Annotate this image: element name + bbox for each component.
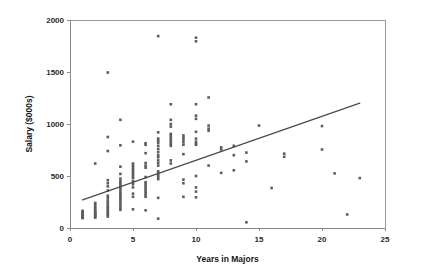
plot-frame — [70, 20, 385, 228]
data-point — [346, 213, 349, 216]
data-point — [195, 140, 198, 143]
data-point — [182, 182, 185, 185]
regression-trend-line — [83, 103, 360, 200]
data-point — [144, 209, 147, 212]
data-point — [182, 178, 185, 181]
data-point — [195, 40, 198, 43]
data-point — [107, 150, 110, 153]
data-point — [170, 133, 173, 136]
y-tick-label: 500 — [51, 172, 65, 181]
data-point — [182, 141, 185, 144]
data-point — [170, 159, 173, 162]
data-point — [132, 186, 135, 189]
data-point — [321, 125, 324, 128]
data-point — [157, 148, 160, 151]
data-point — [157, 35, 160, 38]
data-point — [245, 160, 248, 163]
data-point — [245, 151, 248, 154]
data-point — [170, 119, 173, 122]
data-point — [94, 162, 97, 165]
y-tick-label: 1000 — [46, 120, 64, 129]
data-point — [132, 140, 135, 143]
data-point — [157, 131, 160, 134]
data-point — [195, 175, 198, 178]
data-point — [132, 208, 135, 211]
data-point — [195, 103, 198, 106]
x-tick-label: 15 — [255, 235, 264, 244]
data-point — [233, 154, 236, 157]
data-point — [144, 142, 147, 145]
data-point — [107, 179, 110, 182]
data-point — [195, 36, 198, 39]
data-point — [182, 144, 185, 147]
data-point — [207, 164, 210, 167]
data-point — [132, 196, 135, 199]
data-point — [144, 152, 147, 155]
y-axis-title: Salary ($000s) — [24, 95, 34, 152]
data-point — [157, 197, 160, 200]
data-point — [195, 186, 198, 189]
data-point — [144, 164, 147, 167]
x-tick-label: 0 — [68, 235, 73, 244]
data-point — [157, 151, 160, 154]
data-point — [157, 170, 160, 173]
data-point — [170, 103, 173, 106]
data-point — [333, 172, 336, 175]
data-point — [195, 196, 198, 199]
data-point — [157, 145, 160, 148]
data-point — [207, 127, 210, 130]
data-point — [283, 152, 286, 155]
data-point — [132, 183, 135, 186]
data-point — [207, 96, 210, 99]
data-point — [220, 146, 223, 149]
data-point — [94, 202, 97, 205]
x-tick-label: 5 — [131, 235, 136, 244]
data-point-group — [81, 35, 361, 224]
data-point — [182, 153, 185, 156]
data-point — [107, 199, 110, 202]
data-point — [132, 192, 135, 195]
data-point — [157, 154, 160, 157]
x-tick-label: 10 — [192, 235, 201, 244]
data-point — [170, 123, 173, 126]
data-point — [157, 162, 160, 165]
data-point — [132, 162, 135, 165]
data-point — [258, 124, 261, 127]
data-point — [107, 182, 110, 185]
data-point — [359, 177, 362, 180]
data-point — [170, 125, 173, 128]
data-point — [119, 177, 122, 180]
data-point — [207, 124, 210, 127]
data-point — [220, 172, 223, 175]
y-tick-label: 2000 — [46, 16, 64, 25]
data-point — [119, 180, 122, 183]
data-point — [283, 155, 286, 158]
data-point — [321, 148, 324, 151]
data-point — [144, 181, 147, 184]
data-point — [182, 196, 185, 199]
data-point — [157, 217, 160, 220]
data-point — [119, 119, 122, 122]
data-point — [119, 144, 122, 147]
data-point — [195, 131, 198, 134]
data-point — [195, 118, 198, 121]
data-point — [107, 185, 110, 188]
data-point — [233, 169, 236, 172]
data-point — [157, 164, 160, 167]
data-point — [195, 114, 198, 117]
x-axis-title: Years in Majors — [196, 254, 259, 264]
data-point — [195, 137, 198, 140]
data-point — [245, 221, 248, 224]
data-point — [270, 187, 273, 190]
data-point — [170, 162, 173, 165]
x-tick-label: 25 — [381, 235, 390, 244]
plot-canvas: 05001000150020000510152025Years in Major… — [0, 0, 425, 272]
data-point — [119, 165, 122, 168]
data-point — [107, 71, 110, 74]
data-point — [195, 190, 198, 193]
y-tick-label: 1500 — [46, 68, 64, 77]
data-point — [157, 159, 160, 162]
data-point — [119, 173, 122, 176]
data-point — [107, 136, 110, 139]
data-point — [157, 137, 160, 140]
